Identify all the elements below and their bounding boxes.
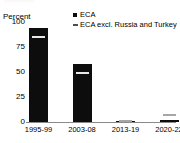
- legend-item-label: ECA: [80, 10, 95, 20]
- bar-chart: Percent 1007550250 1995-992003-082013-19…: [0, 0, 180, 143]
- x-tick-label: 1995-99: [18, 126, 60, 134]
- marker-dash: [76, 72, 89, 74]
- legend-item-label: ECA excl. Russia and Turkey: [80, 20, 177, 30]
- marker-dash: [163, 114, 176, 116]
- legend-item-eca-excl: ECA excl. Russia and Turkey: [73, 20, 177, 30]
- marker-dash: [32, 36, 45, 38]
- x-tick-label: 2020-22: [148, 126, 180, 134]
- x-tick-label: 2013-19: [105, 126, 147, 134]
- legend-square-icon: [73, 13, 77, 17]
- legend-dash-icon: [73, 24, 78, 26]
- marker-dash: [119, 120, 132, 122]
- bar: [160, 120, 179, 123]
- bar: [29, 28, 48, 122]
- legend-item-eca: ECA: [73, 10, 177, 20]
- x-tick-label: 2003-08: [61, 126, 103, 134]
- chart-legend: ECA ECA excl. Russia and Turkey: [73, 10, 177, 30]
